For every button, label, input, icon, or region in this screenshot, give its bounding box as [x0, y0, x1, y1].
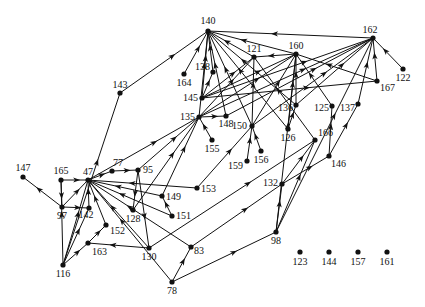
arrowhead-icon [194, 44, 202, 53]
arrowhead-icon [244, 179, 253, 187]
arrowhead-icon [342, 121, 350, 130]
edge-line [88, 225, 106, 243]
edge-77-to-95 [112, 168, 138, 173]
arrowhead-icon [297, 154, 305, 163]
node-dot [196, 114, 201, 119]
edge-156-to-150 [252, 126, 261, 151]
edge-line [208, 31, 252, 126]
edge-line [62, 207, 89, 208]
node-159: 159 [228, 158, 250, 171]
node-label: 140 [201, 15, 216, 26]
node-122: 122 [396, 66, 411, 83]
edge-153-to-150 [197, 126, 252, 188]
arrowhead-icon [168, 52, 177, 60]
node-label: 147 [16, 162, 31, 173]
edge-165-to-97 [59, 180, 64, 207]
node-label: 146 [331, 158, 346, 169]
node-116: 116 [56, 262, 71, 279]
node-dot [58, 177, 63, 182]
node-label: 128 [126, 213, 141, 224]
node-dot [135, 167, 140, 172]
node-143: 143 [113, 79, 128, 96]
node-dot [329, 103, 334, 108]
node-123: 123 [293, 249, 308, 267]
node-146: 146 [326, 153, 346, 169]
node-147: 147 [16, 162, 31, 180]
node-label: 95 [143, 164, 153, 175]
node-dot [60, 262, 65, 267]
arrowhead-icon [252, 132, 259, 140]
edge-line [23, 177, 62, 207]
edge-line [138, 170, 149, 248]
edge-150-to-140 [208, 31, 252, 126]
arrowhead-icon [179, 257, 187, 266]
edge-line [208, 31, 373, 38]
node-144: 144 [322, 249, 337, 267]
edge-145-to-167 [202, 81, 377, 98]
arrowhead-icon [299, 66, 308, 74]
edge-line [199, 117, 212, 140]
node-dot [20, 174, 25, 179]
node-dot [109, 168, 114, 173]
edge-line [252, 57, 254, 126]
arrowhead-icon [254, 68, 263, 76]
node-151: 151 [169, 210, 191, 221]
node-78: 78 [167, 279, 177, 296]
node-label: 138 [195, 61, 210, 72]
node-label: 164 [177, 77, 192, 88]
node-label: 126 [281, 132, 296, 143]
node-label: 116 [56, 268, 71, 279]
arrowhead-icon [205, 79, 213, 87]
edge-line [252, 126, 261, 151]
node-164: 164 [177, 71, 192, 88]
edge-line [197, 126, 252, 188]
node-137: 137 [340, 101, 361, 113]
node-163: 163 [85, 240, 107, 257]
node-dot [279, 181, 284, 186]
node-label: 162 [363, 24, 378, 35]
node-dot [374, 78, 379, 83]
node-dot [293, 102, 298, 107]
node-dot [199, 95, 204, 100]
node-dot [194, 185, 199, 190]
node-dot [159, 193, 164, 198]
node-label: 156 [254, 154, 269, 165]
node-dot [103, 222, 108, 227]
node-label: 97 [57, 210, 67, 221]
node-dot [384, 249, 389, 254]
node-dot [205, 28, 210, 33]
node-label: 136 [278, 102, 293, 113]
node-label: 149 [166, 191, 181, 202]
edge-155-to-135 [199, 117, 212, 140]
node-label: 77 [113, 157, 123, 168]
arrowhead-icon [241, 205, 250, 213]
arrowhead-icon [92, 194, 99, 202]
node-label: 155 [205, 143, 220, 154]
node-label: 137 [340, 102, 355, 113]
node-dot [85, 240, 90, 245]
node-dot [312, 137, 317, 142]
node-dot [251, 54, 256, 59]
node-161: 161 [380, 249, 395, 267]
edge-line [373, 38, 403, 69]
node-dot [326, 249, 331, 254]
node-155: 155 [205, 137, 220, 154]
node-135: 135 [180, 111, 202, 122]
node-dot [258, 148, 263, 153]
node-dot [293, 51, 298, 56]
node-128: 128 [126, 207, 141, 224]
edge-line [172, 247, 191, 282]
arrowhead-icon [75, 227, 83, 236]
arrowhead-icon [364, 61, 371, 69]
arrowhead-icon [93, 158, 100, 166]
node-dot [117, 90, 122, 95]
node-label: 121 [247, 43, 262, 54]
node-label: 157 [351, 256, 366, 267]
edge-78-to-83 [172, 247, 191, 282]
node-98: 98 [271, 229, 281, 246]
node-dot [244, 158, 249, 163]
arrowhead-icon [222, 65, 230, 74]
node-label: 161 [380, 256, 395, 267]
edge-132-to-146 [282, 156, 329, 184]
directed-graph-canvas: 1401621211601381641221451671431361251371… [0, 0, 425, 307]
